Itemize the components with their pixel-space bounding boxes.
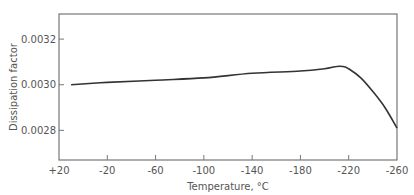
- x-tick-label: -140: [241, 165, 264, 176]
- data-line: [71, 66, 397, 128]
- plot-frame: [59, 14, 397, 160]
- x-tick-label: +20: [48, 165, 69, 176]
- x-tick-label: -20: [99, 165, 115, 176]
- x-axis-title: Temperature, °C: [186, 181, 269, 192]
- x-tick-label: -100: [193, 165, 216, 176]
- y-tick-label: 0.0028: [21, 125, 56, 136]
- x-tick-label: -180: [289, 165, 312, 176]
- x-axis-ticks: +20-20-60-100-140-180-220-260: [48, 155, 408, 176]
- chart: +20-20-60-100-140-180-220-260 0.00280.00…: [0, 0, 414, 195]
- y-axis-ticks: 0.00280.00300.0032: [21, 34, 64, 136]
- y-axis-title: Dissipation factor: [8, 42, 19, 131]
- y-tick-label: 0.0030: [21, 79, 56, 90]
- x-tick-label: -260: [386, 165, 409, 176]
- x-tick-label: -60: [147, 165, 163, 176]
- x-tick-label: -220: [337, 165, 360, 176]
- y-tick-label: 0.0032: [21, 34, 56, 45]
